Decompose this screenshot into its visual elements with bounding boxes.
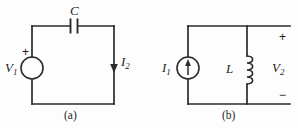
current-source-arrow-head — [185, 59, 191, 66]
current-source-label-i1: I1 — [162, 61, 171, 74]
output-minus-sign: − — [279, 89, 286, 101]
caption-a: (a) — [64, 110, 77, 122]
voltage-source-symbol — [21, 57, 43, 79]
caption-b: (b) — [222, 110, 235, 122]
circuit-a-group — [21, 19, 118, 105]
inductor-label-l: L — [226, 62, 233, 75]
circuit-drawing-canvas — [0, 0, 298, 128]
current-arrow-i2-head — [110, 64, 118, 73]
voltage-source-label-v1: V1 — [5, 61, 17, 74]
voltage-source-plus-sign: + — [22, 46, 29, 58]
inductor-coil-symbol — [247, 56, 253, 84]
circuit-figure: V1 + C I2 (a) I1 L + V2 − (b) — [0, 0, 298, 128]
capacitor-label-c: C — [70, 4, 79, 17]
output-voltage-label-v2: V2 — [272, 61, 284, 74]
output-plus-sign: + — [279, 31, 286, 43]
current-label-i2: I2 — [121, 55, 130, 68]
